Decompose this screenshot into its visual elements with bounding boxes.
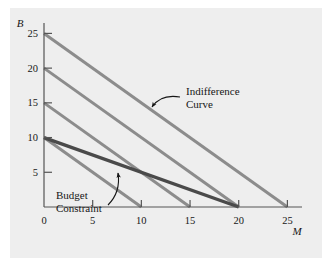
budget-label-line2: Constraint [56,202,102,214]
figure-container: 5101520250510152025 B M Indifference Cur… [0,0,328,267]
y-axis-title: B [17,17,24,29]
annotation-indifference-curve: Indifference Curve [152,85,240,110]
budget-arrow-icon [108,173,119,205]
x-tick-label-5: 5 [90,215,95,226]
axes-layer [44,23,302,207]
annotation-budget-constraint: Budget Constraint [56,173,119,214]
x-axis-title: M [291,225,302,237]
budget-label-line1: Budget [56,189,88,201]
y-tick-label-10: 10 [28,132,39,143]
y-tick-label-5: 5 [33,167,38,178]
y-tick-label-25: 25 [28,28,39,39]
y-tick-label-15: 15 [28,97,39,108]
y-tick-label-20: 20 [28,63,39,74]
indifference-label-line2: Curve [186,98,213,110]
indifference-arrow-icon [152,96,180,107]
x-tick-label-25: 25 [282,215,293,226]
x-tick-label-0: 0 [41,215,46,226]
x-tick-label-20: 20 [233,215,244,226]
x-tick-label-10: 10 [136,215,147,226]
indifference-label-line1: Indifference [186,85,240,97]
chart-canvas: 5101520250510152025 B M Indifference Cur… [0,0,328,267]
x-tick-label-15: 15 [185,215,196,226]
data-series-layer [44,33,287,207]
